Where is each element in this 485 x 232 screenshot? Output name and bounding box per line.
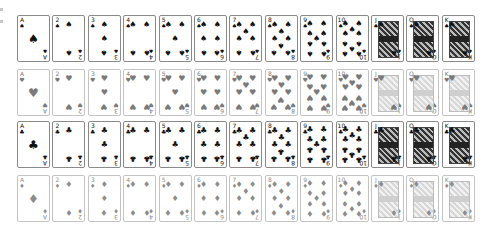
- club-icon: ♣: [213, 141, 221, 149]
- spade-icon: ♠: [65, 48, 73, 56]
- card-q-of-diamonds[interactable]: Q♦Q♦♦♦: [406, 175, 439, 222]
- card-6-of-hearts[interactable]: 6♥6♥♥♥♥♥♥♥: [194, 69, 227, 116]
- diamond-icon: ♦: [200, 181, 208, 189]
- spade-icon: ♠: [320, 49, 328, 57]
- heart-icon: ♥: [306, 103, 314, 111]
- card-10-of-hearts[interactable]: 10♥10♥♥♥♥♥♥♥♥♥♥♥: [336, 69, 369, 116]
- club-icon: ♣: [28, 139, 40, 151]
- spade-icon: ♠: [249, 48, 257, 56]
- card-3-of-spades[interactable]: 3♠3♠♠♠♠: [88, 15, 121, 62]
- card-8-of-hearts[interactable]: 8♥8♥♥♥♥♥♥♥♥♥: [265, 69, 298, 116]
- card-5-of-hearts[interactable]: 5♥5♥♥♥♥♥♥: [159, 69, 192, 116]
- left-edge-mark: [0, 20, 3, 23]
- portrait-band: [379, 196, 398, 202]
- card-k-of-clubs[interactable]: K♣K♣♣♣: [442, 121, 475, 168]
- diamond-icon: ♦: [164, 181, 172, 189]
- diamond-icon: ♦: [164, 208, 172, 216]
- card-2-of-spades[interactable]: 2♠2♠♠♠: [52, 15, 85, 62]
- spade-icon: ♠: [100, 48, 108, 56]
- card-a-of-spades[interactable]: A♠A♠♠: [17, 15, 50, 62]
- card-j-of-diamonds[interactable]: J♦J♦♦♦: [371, 175, 404, 222]
- card-5-of-spades[interactable]: 5♠5♠♠♠♠♠♠: [159, 15, 192, 62]
- card-9-of-hearts[interactable]: 9♥9♥♥♥♥♥♥♥♥♥♥: [300, 69, 333, 116]
- card-4-of-hearts[interactable]: 4♥4♥♥♥♥♥: [123, 69, 156, 116]
- heart-icon: ♥: [143, 75, 151, 83]
- spade-icon: ♠: [390, 48, 398, 56]
- club-icon: ♣: [320, 136, 328, 144]
- heart-icon: ♥: [355, 93, 363, 101]
- card-4-of-clubs[interactable]: 4♣4♣♣♣♣♣: [123, 121, 156, 168]
- club-icon: ♣: [377, 127, 385, 135]
- card-8-of-spades[interactable]: 8♠8♠♠♠♠♠♠♠♠♠: [265, 15, 298, 62]
- card-3-of-diamonds[interactable]: 3♦3♦♦♦♦: [88, 175, 121, 222]
- card-2-of-diamonds[interactable]: 2♦2♦♦♦: [52, 175, 85, 222]
- heart-icon: ♥: [235, 89, 243, 97]
- card-7-of-diamonds[interactable]: 7♦7♦♦♦♦♦♦♦♦: [229, 175, 262, 222]
- club-icon: ♣: [249, 127, 257, 135]
- card-10-of-clubs[interactable]: 10♣10♣♣♣♣♣♣♣♣♣♣♣: [336, 121, 369, 168]
- card-6-of-spades[interactable]: 6♠6♠♠♠♠♠♠♠: [194, 15, 227, 62]
- card-k-of-diamonds[interactable]: K♦K♦♦♦: [442, 175, 475, 222]
- spade-icon: ♠: [461, 48, 469, 56]
- heart-icon: ♥: [19, 77, 25, 83]
- club-icon: ♣: [65, 154, 73, 162]
- card-q-of-clubs[interactable]: Q♣Q♣♣♣: [406, 121, 439, 168]
- portrait-band: [450, 90, 469, 96]
- club-icon: ♣: [270, 154, 278, 162]
- card-9-of-spades[interactable]: 9♠9♠♠♠♠♠♠♠♠♠♠: [300, 15, 333, 62]
- card-8-of-diamonds[interactable]: 8♦8♦♦♦♦♦♦♦♦♦: [265, 175, 298, 222]
- card-index-bottom-right: 3♣: [113, 154, 119, 166]
- spade-icon: ♠: [143, 21, 151, 29]
- card-6-of-diamonds[interactable]: 6♦6♦♦♦♦♦♦♦: [194, 175, 227, 222]
- card-j-of-spades[interactable]: J♠J♠♠♠: [371, 15, 404, 62]
- card-9-of-clubs[interactable]: 9♣9♣♣♣♣♣♣♣♣♣♣: [300, 121, 333, 168]
- card-8-of-clubs[interactable]: 8♣8♣♣♣♣♣♣♣♣♣: [265, 121, 298, 168]
- spade-icon: ♠: [129, 48, 137, 56]
- club-icon: ♣: [200, 141, 208, 149]
- card-10-of-spades[interactable]: 10♠10♠♠♠♠♠♠♠♠♠♠♠: [336, 15, 369, 62]
- card-q-of-hearts[interactable]: Q♥Q♥♥♥: [406, 69, 439, 116]
- club-icon: ♣: [100, 141, 108, 149]
- card-5-of-clubs[interactable]: 5♣5♣♣♣♣♣♣: [159, 121, 192, 168]
- card-4-of-spades[interactable]: 4♠4♠♠♠♠♠: [123, 15, 156, 62]
- card-j-of-hearts[interactable]: J♥J♥♥♥: [371, 69, 404, 116]
- diamond-icon: ♦: [320, 199, 328, 207]
- card-k-of-spades[interactable]: K♠K♠♠♠: [442, 15, 475, 62]
- card-2-of-clubs[interactable]: 2♣2♣♣♣: [52, 121, 85, 168]
- card-3-of-clubs[interactable]: 3♣3♣♣♣♣: [88, 121, 121, 168]
- heart-icon: ♥: [143, 102, 151, 110]
- club-icon: ♣: [77, 154, 83, 160]
- card-10-of-diamonds[interactable]: 10♦10♦♦♦♦♦♦♦♦♦♦♦: [336, 175, 369, 222]
- left-edge-mark: [0, 8, 3, 11]
- card-7-of-spades[interactable]: 7♠7♠♠♠♠♠♠♠♠: [229, 15, 262, 62]
- card-3-of-hearts[interactable]: 3♥3♥♥♥♥: [88, 69, 121, 116]
- card-j-of-clubs[interactable]: J♣J♣♣♣: [371, 121, 404, 168]
- heart-icon: ♥: [129, 75, 137, 83]
- diamond-icon: ♦: [284, 208, 292, 216]
- diamond-icon: ♦: [213, 195, 221, 203]
- spade-icon: ♠: [171, 35, 179, 43]
- card-a-of-diamonds[interactable]: A♦A♦♦: [17, 175, 50, 222]
- club-icon: ♣: [200, 127, 208, 135]
- diamond-icon: ♦: [355, 190, 363, 198]
- card-9-of-diamonds[interactable]: 9♦9♦♦♦♦♦♦♦♦♦♦: [300, 175, 333, 222]
- card-2-of-hearts[interactable]: 2♥2♥♥♥: [52, 69, 85, 116]
- diamond-icon: ♦: [412, 181, 420, 189]
- card-7-of-clubs[interactable]: 7♣7♣♣♣♣♣♣♣♣: [229, 121, 262, 168]
- diamond-icon: ♦: [213, 208, 221, 216]
- heart-icon: ♥: [249, 75, 257, 83]
- heart-icon: ♥: [213, 102, 221, 110]
- card-a-of-clubs[interactable]: A♣A♣♣: [17, 121, 50, 168]
- card-a-of-hearts[interactable]: A♥A♥♥: [17, 69, 50, 116]
- spade-icon: ♠: [270, 48, 278, 56]
- card-7-of-hearts[interactable]: 7♥7♥♥♥♥♥♥♥♥: [229, 69, 262, 116]
- card-4-of-diamonds[interactable]: 4♦4♦♦♦♦♦: [123, 175, 156, 222]
- heart-icon: ♥: [171, 89, 179, 97]
- card-5-of-diamonds[interactable]: 5♦5♦♦♦♦♦♦: [159, 175, 192, 222]
- diamond-icon: ♦: [19, 183, 25, 189]
- card-6-of-clubs[interactable]: 6♣6♣♣♣♣♣♣♣: [194, 121, 227, 168]
- card-q-of-spades[interactable]: Q♠Q♠♠♠: [406, 15, 439, 62]
- heart-icon: ♥: [341, 84, 349, 92]
- club-icon: ♣: [448, 127, 456, 135]
- card-k-of-hearts[interactable]: K♥K♥♥♥: [442, 69, 475, 116]
